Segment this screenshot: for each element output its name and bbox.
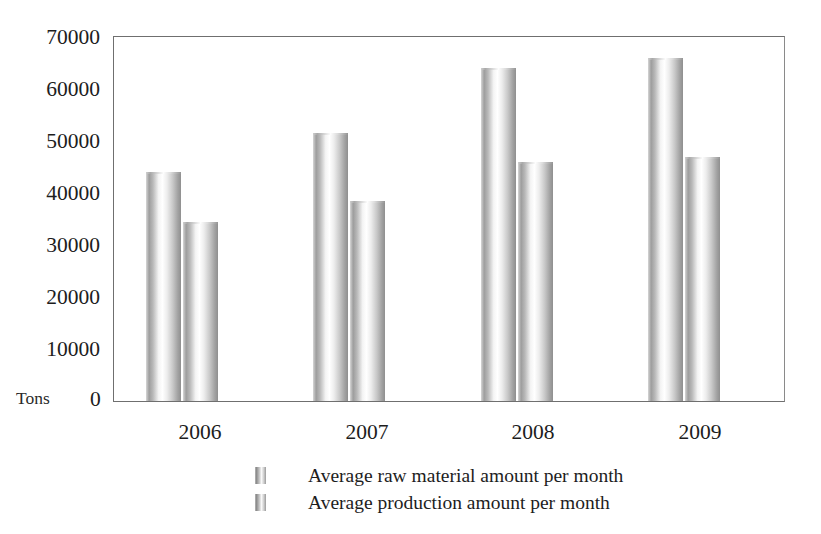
- legend-swatch-icon-series-1: [255, 467, 266, 484]
- x-tick-label-2007: 2007: [307, 421, 427, 443]
- legend-item-production: Average production amount per month: [255, 489, 735, 516]
- bar-2007-series-2: [350, 201, 385, 401]
- x-tick-label-2008: 2008: [473, 421, 593, 443]
- legend-swatch-icon-series-2: [255, 494, 266, 511]
- y-tick-label-70000: 70000: [0, 27, 100, 49]
- bar-2008-series-1: [481, 68, 516, 401]
- legend-label-series-1: Average raw material amount per month: [308, 465, 623, 487]
- y-tick-label-20000: 20000: [0, 287, 100, 309]
- y-axis-title: Tons: [16, 389, 50, 407]
- bar-2008-series-2: [518, 162, 553, 401]
- legend-item-raw-material: Average raw material amount per month: [255, 462, 735, 489]
- bar-2009-series-1: [648, 58, 683, 401]
- bars-layer: [114, 37, 784, 401]
- y-tick-label-30000: 30000: [0, 235, 100, 257]
- y-axis: 70000 60000 50000 40000 30000 20000 1000…: [0, 0, 113, 534]
- legend-label-series-2: Average production amount per month: [308, 492, 610, 514]
- legend: Average raw material amount per month Av…: [255, 462, 735, 516]
- y-tick-label-60000: 60000: [0, 79, 100, 101]
- bar-2006-series-1: [146, 172, 181, 401]
- y-tick-label-10000: 10000: [0, 339, 100, 361]
- y-tick-label-40000: 40000: [0, 183, 100, 205]
- bar-chart: 70000 60000 50000 40000 30000 20000 1000…: [0, 0, 821, 534]
- y-tick-label-0: 0: [90, 389, 101, 409]
- x-tick-label-2009: 2009: [640, 421, 760, 443]
- bar-2009-series-2: [685, 157, 720, 401]
- plot-area: [113, 36, 785, 402]
- y-tick-label-50000: 50000: [0, 131, 100, 153]
- x-tick-label-2006: 2006: [140, 421, 260, 443]
- bar-2007-series-1: [313, 133, 348, 401]
- bar-2006-series-2: [183, 222, 218, 401]
